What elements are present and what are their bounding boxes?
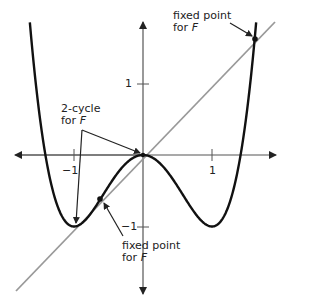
fixed-point-bottom-label: fixed point for F [122,240,180,264]
x-tick-label-1: 1 [209,164,216,177]
fixed-point-top-label: fixed point for F [173,10,231,34]
fixed-point-top-arrow [230,23,252,36]
fixed-point-bottom-dot [97,196,103,202]
y-tick-label-1: 1 [125,77,132,90]
fixed-point-top-dot [252,36,258,42]
two-cycle-dot-origin [141,153,145,157]
two-cycle-arrow-origin [82,130,140,153]
two-cycle-label: 2-cycle for F [61,103,100,127]
x-tick-label-neg1: −1 [62,164,78,177]
y-tick-label-neg1: −1 [121,220,137,233]
